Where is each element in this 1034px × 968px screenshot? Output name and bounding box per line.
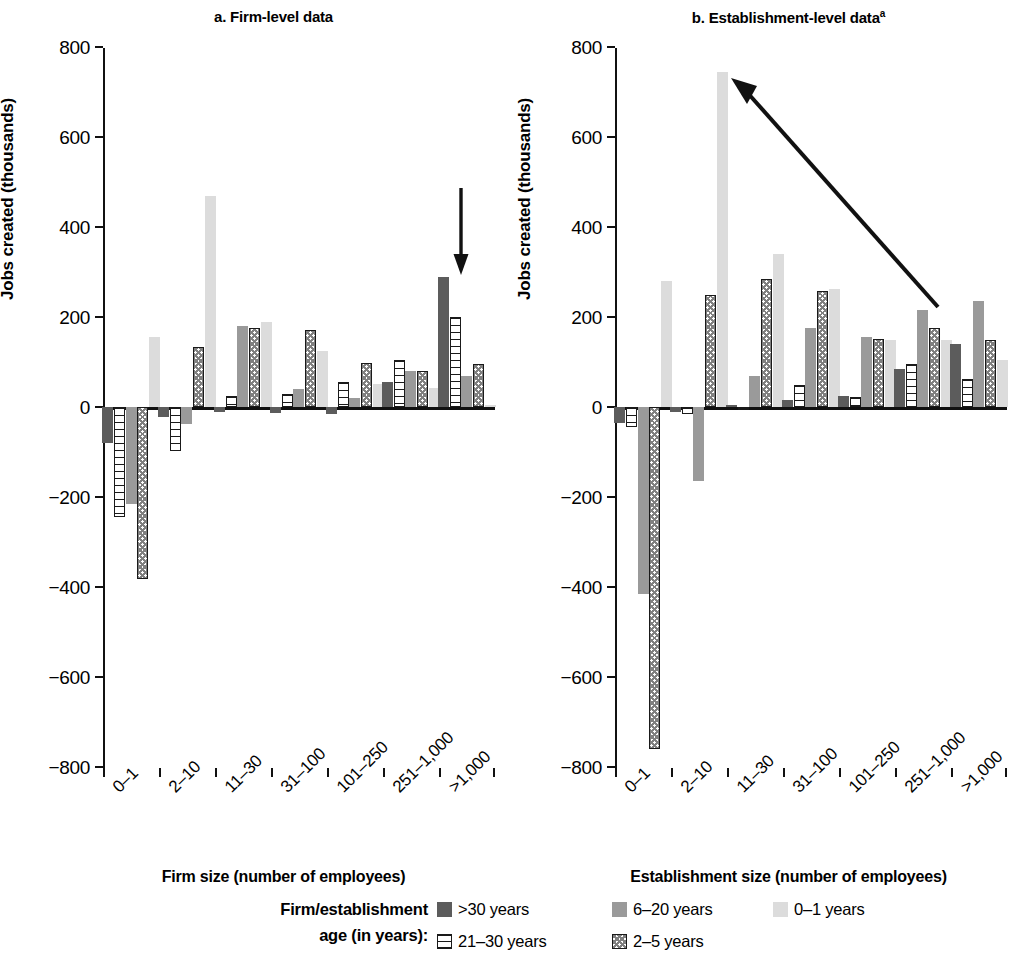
bar-gt30 <box>158 407 169 417</box>
bar-y2-5 <box>929 328 940 407</box>
bar-y21-30 <box>850 397 861 407</box>
chart-legend: Firm/establishment age (in years): >30 y… <box>0 896 1034 968</box>
bar-y6-20 <box>461 376 472 407</box>
bar-gt30 <box>214 407 225 412</box>
bar-y6-20 <box>805 328 816 407</box>
bar-y6-20 <box>237 326 248 407</box>
y-axis-tick-label: 800 <box>59 38 90 57</box>
y-axis-tick-label: 600 <box>571 128 602 147</box>
legend-label: >30 years <box>458 900 529 918</box>
bar-y21-30 <box>226 396 237 407</box>
bar-gt30 <box>438 277 449 408</box>
legend-swatch-y6_20-icon <box>612 902 627 917</box>
bar-group-31-100 <box>782 48 840 768</box>
panel-a-x-axis-title: Firm size (number of employees) <box>0 868 517 886</box>
legend-label: 2–5 years <box>633 932 704 950</box>
x-axis-tick <box>951 768 953 777</box>
bar-group-31-100 <box>270 48 328 768</box>
legend-item-y6_20: 6–20 years <box>612 896 713 922</box>
bar-y6-20 <box>973 301 984 407</box>
y-axis-tick-label: 400 <box>59 218 90 237</box>
panel-b-title: b. Establishment-level dataa <box>517 8 1034 26</box>
bar-gt30 <box>838 396 849 407</box>
legend-swatch-y2_5-icon <box>612 934 627 949</box>
legend-title-line2: age (in years): <box>168 922 428 948</box>
panel-b-title-footnote: a <box>880 8 885 19</box>
panel-a-title: a. Firm-level data <box>0 8 517 25</box>
x-axis-tick <box>615 768 617 777</box>
panel-a-plot-area: 8006004002000−200−400−600−8000–12–1011–3… <box>103 48 495 768</box>
legend-label: 6–20 years <box>633 900 713 918</box>
bar-y6-20 <box>749 376 760 408</box>
bar-y21-30 <box>682 407 693 414</box>
bar-group-2-10 <box>158 48 216 768</box>
bar-y2-5 <box>417 371 428 407</box>
bar-y21-30 <box>170 407 181 451</box>
bar-y21-30 <box>114 407 125 517</box>
x-axis-tick <box>103 768 105 777</box>
legend-item-gt30: >30 years <box>437 896 529 922</box>
bar-y0-1 <box>997 360 1008 407</box>
x-axis-tick <box>895 768 897 777</box>
y-axis-tick-label: −200 <box>560 488 602 507</box>
bar-y6-20 <box>349 398 360 407</box>
x-axis-tick <box>215 768 217 777</box>
x-axis-tick <box>159 768 161 777</box>
legend-swatch-y0_1-icon <box>773 902 788 917</box>
bar-gt30 <box>382 382 393 407</box>
bar-group--1-000 <box>950 48 1008 768</box>
legend-label: 21–30 years <box>458 932 547 950</box>
bar-y21-30 <box>738 407 749 410</box>
bar-y2-5 <box>137 407 148 579</box>
bar-group-11-30 <box>214 48 272 768</box>
y-axis-tick-label: 200 <box>571 308 602 327</box>
y-axis-tick-label: 600 <box>59 128 90 147</box>
y-axis-tick-label: 0 <box>592 398 602 417</box>
bar-group-0-1 <box>614 48 672 768</box>
bar-y21-30 <box>450 317 461 407</box>
bar-y2-5 <box>305 330 316 407</box>
y-axis-tick-label: −600 <box>48 668 90 687</box>
y-axis-tick-label: −400 <box>560 578 602 597</box>
bar-y21-30 <box>962 379 973 407</box>
x-axis-tick <box>327 768 329 777</box>
y-axis-tick-label: 200 <box>59 308 90 327</box>
bar-y21-30 <box>282 394 293 408</box>
bar-y2-5 <box>761 279 772 407</box>
bar-y6-20 <box>638 407 649 594</box>
bar-y2-5 <box>193 347 204 407</box>
bar-y2-5 <box>705 295 716 408</box>
bar-y6-20 <box>861 337 872 407</box>
bar-gt30 <box>326 407 337 414</box>
bar-gt30 <box>950 344 961 407</box>
y-axis-tick-label: −800 <box>560 758 602 777</box>
bar-gt30 <box>102 407 113 443</box>
legend-title: Firm/establishment age (in years): <box>168 896 428 948</box>
bar-y21-30 <box>338 382 349 407</box>
x-axis-tick <box>671 768 673 777</box>
bar-y6-20 <box>405 371 416 407</box>
bar-y21-30 <box>626 407 637 427</box>
bar-y2-5 <box>873 339 884 407</box>
x-axis-category-label: 0–1 <box>109 764 143 798</box>
legend-label: 0–1 years <box>794 900 865 918</box>
bar-y21-30 <box>906 364 917 407</box>
bar-y6-20 <box>181 407 192 424</box>
bar-group-251-1-000 <box>894 48 952 768</box>
panel-b-y-axis-title: Jobs created (thousands) <box>515 98 535 300</box>
bar-group-101-250 <box>326 48 384 768</box>
bar-gt30 <box>270 407 281 413</box>
panel-a-y-axis-title: Jobs created (thousands) <box>0 98 18 300</box>
y-axis-tick-label: 400 <box>571 218 602 237</box>
bar-y2-5 <box>473 364 484 407</box>
legend-swatch-gt30-icon <box>437 902 452 917</box>
panel-a-title-text: a. Firm-level data <box>214 8 333 25</box>
bar-y2-5 <box>649 407 660 749</box>
y-axis-tick-label: 0 <box>80 398 90 417</box>
bar-y2-5 <box>249 328 260 407</box>
bar-y6-20 <box>917 310 928 407</box>
x-axis-tick <box>1005 768 1007 777</box>
panel-b-x-axis-title: Establishment size (number of employees) <box>517 868 1034 886</box>
bar-gt30 <box>726 405 737 407</box>
bar-y2-5 <box>361 363 372 407</box>
